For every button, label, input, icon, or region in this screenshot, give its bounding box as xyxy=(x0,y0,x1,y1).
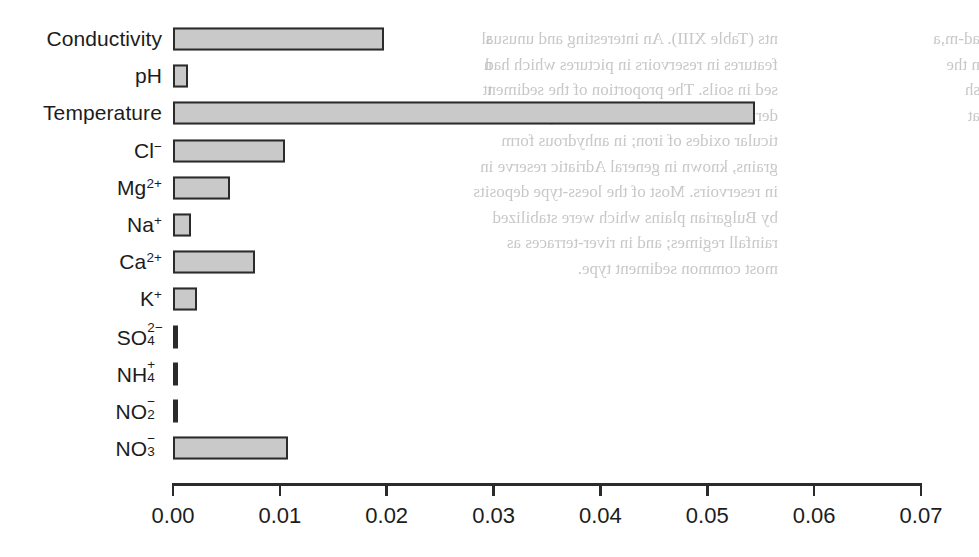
bar-row: SO2−4 xyxy=(0,325,979,349)
bar-category-label: Cl− xyxy=(0,139,162,163)
x-tick-label: 0.03 xyxy=(439,503,549,529)
x-tick xyxy=(813,483,816,496)
bar-row: Mg2+ xyxy=(0,176,979,200)
bar xyxy=(173,400,178,423)
bar xyxy=(173,102,755,125)
bar-row: pH xyxy=(0,64,979,88)
x-axis: 0.000.010.020.030.040.050.060.07 xyxy=(0,483,979,553)
x-tick xyxy=(706,483,709,496)
horizontal-bar-chart: ConductivitypHTemperatureCl−Mg2+Na+Ca2+K… xyxy=(0,0,979,557)
bar xyxy=(173,28,384,51)
bar-row: Conductivity xyxy=(0,27,979,51)
bar-category-label: NO−3 xyxy=(0,435,162,461)
bar-row: K+ xyxy=(0,287,979,311)
bar xyxy=(173,288,197,311)
bar-category-label: Conductivity xyxy=(0,27,162,51)
x-tick-label: 0.06 xyxy=(759,503,869,529)
bar-category-label: NH+4 xyxy=(0,361,162,387)
x-tick xyxy=(279,483,282,496)
bar xyxy=(173,139,285,162)
bar-category-label: NO−2 xyxy=(0,398,162,424)
bar-category-label: K+ xyxy=(0,287,162,311)
x-tick xyxy=(385,483,388,496)
bar-row: NH+4 xyxy=(0,362,979,386)
bar-row: Cl− xyxy=(0,139,979,163)
bar xyxy=(173,176,230,199)
x-tick-label: 0.07 xyxy=(866,503,976,529)
bar xyxy=(173,325,178,348)
x-tick-label: 0.04 xyxy=(545,503,655,529)
x-tick xyxy=(920,483,923,496)
x-tick-label: 0.01 xyxy=(225,503,335,529)
x-axis-line xyxy=(173,483,921,486)
x-tick-label: 0.00 xyxy=(118,503,228,529)
x-tick-label: 0.02 xyxy=(332,503,442,529)
bar xyxy=(173,362,178,385)
bar-category-label: pH xyxy=(0,64,162,88)
x-tick xyxy=(599,483,602,496)
bar xyxy=(173,214,191,237)
bar-category-label: Ca2+ xyxy=(0,250,162,274)
bar-category-label: Na+ xyxy=(0,213,162,237)
x-tick-label: 0.05 xyxy=(652,503,762,529)
bar-category-label: Temperature xyxy=(0,101,162,125)
bar-row: Temperature xyxy=(0,101,979,125)
bar-row: Ca2+ xyxy=(0,250,979,274)
x-tick xyxy=(492,483,495,496)
bar-row: Na+ xyxy=(0,213,979,237)
x-tick xyxy=(172,483,175,496)
bar-category-label: Mg2+ xyxy=(0,176,162,200)
bar xyxy=(173,437,288,460)
bar xyxy=(173,251,255,274)
bar-row: NO−3 xyxy=(0,436,979,460)
bar xyxy=(173,65,188,88)
bar-row: NO−2 xyxy=(0,399,979,423)
bar-category-label: SO2−4 xyxy=(0,324,162,350)
